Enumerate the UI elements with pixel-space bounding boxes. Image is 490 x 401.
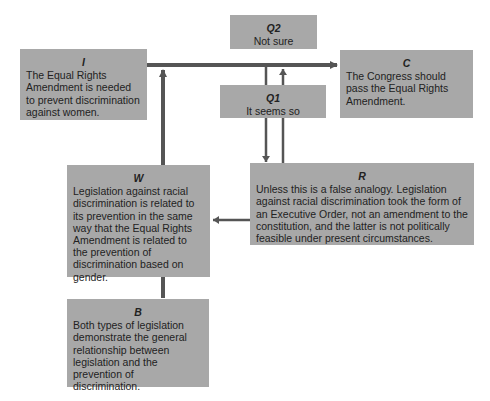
node-w-text: Legislation against racial discriminatio… <box>73 185 204 283</box>
node-r-rebuttal: R Unless this is a false analogy. Legisl… <box>250 163 474 245</box>
node-q1-label: Q1 <box>220 92 326 104</box>
node-c-label: C <box>346 57 467 69</box>
node-r-text: Unless this is a false analogy. Legislat… <box>256 183 468 244</box>
node-q2-text: Not sure <box>230 35 317 47</box>
node-q2-label: Q2 <box>230 22 317 34</box>
node-q1-text: It seems so <box>220 105 326 117</box>
node-b-label: B <box>73 306 203 318</box>
node-q2-qualifier: Q2 Not sure <box>230 15 317 49</box>
node-b-text: Both types of legislation demonstrate th… <box>73 319 203 392</box>
node-c-claim: C The Congress should pass the Equal Rig… <box>340 50 473 118</box>
node-c-text: The Congress should pass the Equal Right… <box>346 70 467 107</box>
node-i-text: The Equal Rights Amendment is needed to … <box>26 69 141 118</box>
node-w-warrant: W Legislation against racial discriminat… <box>67 165 210 277</box>
node-i-label: I <box>26 56 141 68</box>
node-q1-qualifier: Q1 It seems so <box>220 85 326 118</box>
node-r-label: R <box>256 170 468 182</box>
node-w-label: W <box>73 172 204 184</box>
node-i-data: I The Equal Rights Amendment is needed t… <box>20 49 147 120</box>
node-b-backing: B Both types of legislation demonstrate … <box>67 299 209 387</box>
